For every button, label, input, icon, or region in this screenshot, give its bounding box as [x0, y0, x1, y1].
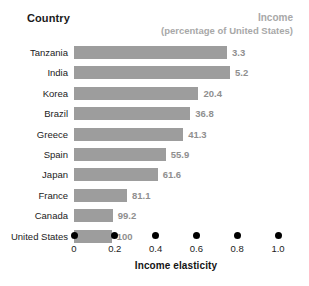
bar-value-label: 55.9 [171, 149, 190, 160]
bar-value-label: 36.8 [195, 108, 214, 119]
bar [74, 168, 158, 181]
category-label: Korea [0, 88, 68, 99]
bar-track: 41.3 [74, 128, 278, 141]
bar-row: Tanzania3.3 [0, 44, 309, 64]
bar-track: 3.3 [74, 46, 278, 59]
category-label: India [0, 67, 68, 78]
bar-row: Korea20.4 [0, 85, 309, 105]
bar-row: Canada99.2 [0, 207, 309, 227]
bar-value-label: 99.2 [118, 210, 137, 221]
category-label: Canada [0, 210, 68, 221]
axis-tick-dot [111, 232, 118, 239]
bar-row: Greece41.3 [0, 126, 309, 146]
bar-value-label: 41.3 [188, 129, 207, 140]
bar-row: Japan61.6 [0, 166, 309, 186]
axis-tick-label: 0.6 [190, 243, 203, 254]
bar-value-label: 81.1 [132, 190, 151, 201]
bar [74, 87, 198, 100]
bar [74, 189, 127, 202]
category-label: Spain [0, 149, 68, 160]
category-label: Japan [0, 169, 68, 180]
bar-row: France81.1 [0, 187, 309, 207]
bar-row: Spain55.9 [0, 146, 309, 166]
bar-track: 61.6 [74, 168, 278, 181]
x-axis-title: Income elasticity [74, 260, 278, 271]
bar [74, 107, 190, 120]
axis-tick-dot [275, 232, 282, 239]
axis-tick-label: 0.2 [108, 243, 121, 254]
income-column-header: Income [93, 12, 293, 23]
axis-tick-dot [152, 232, 159, 239]
axis-tick-dot [193, 232, 200, 239]
bar-track: 36.8 [74, 107, 278, 120]
axis-tick-label: 0.4 [149, 243, 162, 254]
axis-tick-dot [234, 232, 241, 239]
bar-value-label: 3.3 [232, 47, 245, 58]
bar [74, 148, 166, 161]
axis-tick-dot [71, 232, 78, 239]
bar-value-label: 61.6 [163, 169, 182, 180]
bar-track: 99.2 [74, 209, 278, 222]
bar [74, 66, 230, 79]
bar-track: 5.2 [74, 66, 278, 79]
bar-track: 55.9 [74, 148, 278, 161]
bar [74, 209, 113, 222]
chart-header: Country Income (percentage of United Sta… [0, 12, 309, 42]
category-label: Tanzania [0, 47, 68, 58]
x-axis: Income elasticity 00.20.40.60.81.0 [0, 228, 309, 286]
category-label: Brazil [0, 108, 68, 119]
plot-area: Tanzania3.3India5.2Korea20.4Brazil36.8Gr… [0, 44, 309, 230]
bar-value-label: 5.2 [235, 67, 248, 78]
category-label: Greece [0, 129, 68, 140]
bar-row: Brazil36.8 [0, 105, 309, 125]
axis-tick-label: 0 [71, 243, 76, 254]
income-column-subheader: (percentage of United States) [63, 25, 293, 36]
axis-tick-label: 0.8 [231, 243, 244, 254]
category-label: France [0, 190, 68, 201]
bar-row: India5.2 [0, 64, 309, 84]
bar-track: 81.1 [74, 189, 278, 202]
bar-track: 20.4 [74, 87, 278, 100]
country-column-header: Country [27, 12, 70, 24]
income-elasticity-bar-chart: Country Income (percentage of United Sta… [0, 0, 309, 286]
bar [74, 46, 227, 59]
bar [74, 128, 183, 141]
bar-value-label: 20.4 [203, 88, 222, 99]
axis-tick-label: 1.0 [271, 243, 284, 254]
